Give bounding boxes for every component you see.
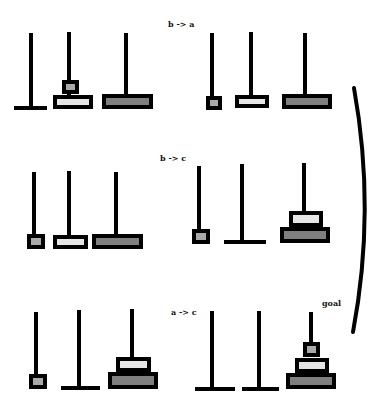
disk-medium [237,97,267,106]
move-label-b-to-a: b -> a [168,20,194,28]
hanoi-diagram: b -> a b -> c a -> c goal [0,0,387,410]
disk-medium [55,97,91,107]
state-1 [14,32,151,108]
disk-large [110,374,156,387]
move-label-a-to-c: a -> c [171,308,197,316]
disk-small [194,231,208,242]
disk-medium [291,213,321,225]
disk-large [104,96,151,107]
state-5 [31,309,156,388]
goal-label: goal [322,299,341,307]
disk-small [305,344,318,355]
state-6-goal [195,311,334,389]
disk-large [284,96,330,107]
disk-large [94,236,141,247]
disk-medium [297,360,327,371]
disk-small [64,82,77,92]
state-3 [29,171,141,247]
disk-large [288,375,334,387]
disk-small [31,376,45,387]
disk-small [208,98,220,108]
disk-medium [118,359,149,370]
state-4 [194,163,328,242]
disk-small [29,236,43,247]
move-label-b-to-c: b -> c [160,154,186,162]
hanoi-states-canvas [0,0,387,410]
disk-medium [55,237,86,247]
disk-large [282,229,328,241]
sequence-bracket [353,88,365,332]
state-2 [208,32,330,108]
